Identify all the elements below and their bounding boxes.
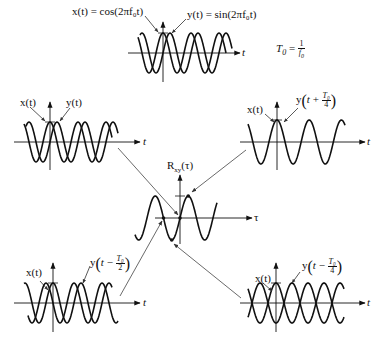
- bottom-left-y-label: y(t − T₀2): [90, 255, 130, 272]
- center-title: Rxy(τ): [167, 160, 193, 174]
- period-fraction: 1f0: [298, 40, 305, 59]
- center-axis-label: τ: [254, 212, 258, 223]
- period-subscript: 0: [282, 48, 286, 57]
- plot-top-left: [14, 102, 140, 170]
- correlation-point: [178, 216, 182, 220]
- top-right-x-label: x(t): [247, 104, 263, 115]
- top-left-x-label: x(t): [20, 97, 36, 108]
- bottom-right-x-label: x(t): [255, 273, 271, 284]
- x-label-pointer: [145, 16, 158, 32]
- top-left-y-label: y(t): [66, 97, 82, 108]
- bottom-right-y-label: y(t − T₀4): [302, 258, 342, 275]
- top-right-axis-label: t: [367, 136, 370, 147]
- x-label-pointer: [265, 114, 274, 122]
- top-left-axis-label: t: [143, 136, 146, 147]
- y-label-pointer: [284, 108, 298, 122]
- correlation-point: [170, 238, 174, 242]
- bottom-left-x-label: x(t): [26, 267, 42, 278]
- connector-top-right: [192, 150, 246, 192]
- y-label-pointer: [292, 272, 300, 283]
- x-label-pointer: [40, 281, 48, 290]
- correlation-point: [162, 216, 166, 220]
- top-y-label: y(t) = sin(2πf₀t): [187, 9, 256, 20]
- period-definition: T0 = 1f0: [276, 40, 305, 59]
- correlation-point: [186, 194, 190, 198]
- connector-bottom-right: [174, 244, 241, 298]
- y-label-pointer: [83, 266, 90, 283]
- x-label-pointer: [30, 107, 45, 121]
- plot-top: [128, 16, 240, 82]
- y-label-pointer: [60, 108, 70, 121]
- top-x-label: x(t) = cos(2πf₀t): [72, 6, 143, 17]
- bottom-right-axis-label: t: [367, 297, 370, 308]
- top-axis-label: t: [242, 47, 245, 58]
- top-right-y-label: y(t + T₀4): [296, 92, 336, 109]
- plot-center-correlation: [135, 175, 252, 244]
- bottom-left-axis-label: t: [143, 297, 146, 308]
- y-label-pointer: [172, 19, 186, 33]
